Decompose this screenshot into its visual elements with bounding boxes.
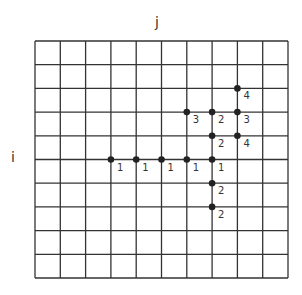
grid-point	[133, 156, 140, 163]
grid-point	[184, 156, 191, 163]
grid-point	[209, 109, 216, 116]
grid-point	[209, 180, 216, 187]
point-label: 1	[168, 163, 174, 173]
point-label: 3	[243, 115, 249, 125]
point-label: 2	[218, 210, 224, 220]
grid-point	[209, 133, 216, 140]
point-label: 2	[218, 139, 224, 149]
grid-point	[184, 109, 191, 116]
grid-point	[209, 156, 216, 163]
grid-point	[234, 85, 241, 92]
grid-point	[158, 156, 165, 163]
point-label: 4	[243, 139, 249, 149]
grid-point	[209, 204, 216, 211]
point-label: 1	[142, 163, 148, 173]
point-label: 2	[218, 186, 224, 196]
point-label: 1	[193, 163, 199, 173]
point-label: 2	[218, 115, 224, 125]
grid-point	[234, 109, 241, 116]
grid-point	[234, 133, 241, 140]
point-label: 1	[117, 163, 123, 173]
point-label: 4	[243, 91, 249, 101]
point-label: 3	[193, 115, 199, 125]
point-label: 1	[218, 163, 224, 173]
grid	[0, 0, 302, 295]
grid-point	[108, 156, 115, 163]
